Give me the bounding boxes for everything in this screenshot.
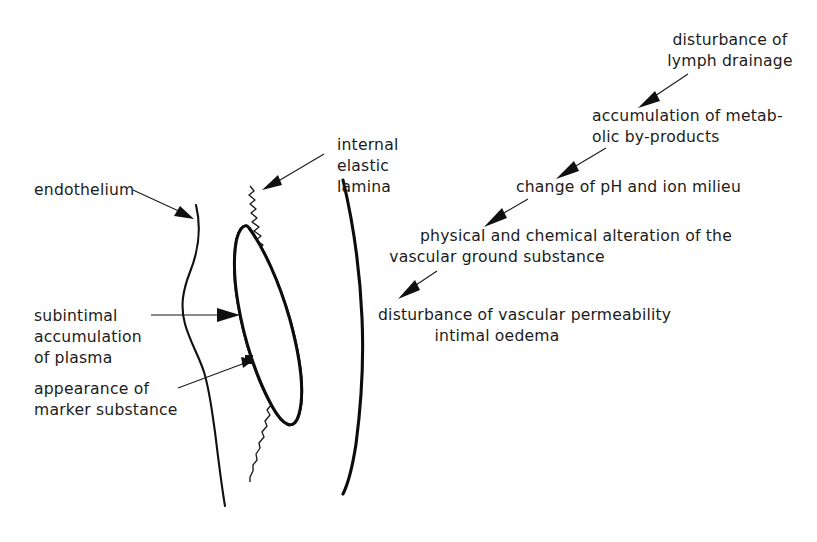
label-internal-elastic-lamina-line2: elastic — [337, 157, 389, 175]
flow-step-lymph-drainage-line2: lymph drainage — [667, 52, 792, 70]
flow-step-ground-substance-line2: vascular ground substance — [389, 248, 605, 266]
flow-step-lymph-drainage-line1: disturbance of — [672, 31, 787, 49]
label-marker-substance-line2: marker substance — [34, 401, 178, 419]
label-subintimal-line3: of plasma — [34, 349, 112, 367]
flow-step-ground-substance-line1: physical and chemical alteration of the — [420, 227, 732, 245]
label-internal-elastic-lamina-line1: internal — [337, 136, 398, 154]
flow-step-ph-ion-milieu-line1: change of pH and ion milieu — [516, 178, 741, 196]
label-endothelium: endothelium — [34, 181, 134, 199]
label-subintimal-line2: accumulation — [34, 328, 142, 346]
page-background — [0, 0, 817, 542]
label-marker-substance-line1: appearance of — [34, 380, 149, 398]
diagram-svg: endothelium internal elastic lamina subi… — [0, 0, 817, 542]
marker-substance-marker-square — [245, 355, 253, 364]
label-subintimal-line1: subintimal — [34, 307, 118, 325]
diagram-canvas: endothelium internal elastic lamina subi… — [0, 0, 817, 542]
flow-step-vascular-permeability-line2: intimal oedema — [435, 327, 560, 345]
flow-step-metabolic-byproducts-line1: accumulation of metab- — [592, 107, 783, 125]
flow-step-vascular-permeability-line1: disturbance of vascular permeability — [378, 306, 671, 324]
label-internal-elastic-lamina-line3: lamina — [337, 178, 391, 196]
flow-step-metabolic-byproducts-line2: olic by-products — [592, 128, 720, 146]
